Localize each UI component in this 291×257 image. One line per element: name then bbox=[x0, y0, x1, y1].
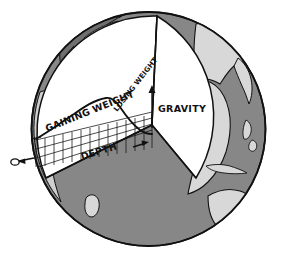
origin-marker bbox=[11, 158, 34, 165]
land-island-lower bbox=[85, 195, 99, 217]
earth-cutaway-illustration: GAINING WEIGHT LOSING WEIGHT GRAVITY DEP… bbox=[0, 0, 291, 257]
label-gravity: GRAVITY bbox=[158, 103, 206, 114]
origin-circle-icon bbox=[11, 159, 19, 165]
land-australia bbox=[208, 190, 257, 234]
diagram-canvas: GAINING WEIGHT LOSING WEIGHT GRAVITY DEP… bbox=[0, 0, 291, 257]
